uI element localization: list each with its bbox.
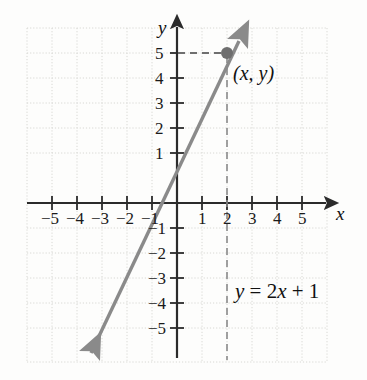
y-tick-label--5: −5 bbox=[148, 320, 166, 337]
y-tick-label--2: −2 bbox=[148, 245, 166, 262]
x-tick-label-1: 1 bbox=[198, 210, 207, 227]
y-tick-label--4: −4 bbox=[148, 295, 166, 312]
x-tick-label-2: 2 bbox=[223, 210, 232, 227]
equation-label: y = 2x + 1 bbox=[235, 281, 319, 302]
equation-plus: + bbox=[292, 279, 304, 303]
x-tick-label--3: −3 bbox=[91, 210, 109, 227]
equation-variable: x bbox=[277, 279, 286, 303]
y-tick-label--3: −3 bbox=[148, 270, 166, 287]
x-tick-label-4: 4 bbox=[273, 210, 282, 227]
x-tick-label--5: −5 bbox=[41, 210, 59, 227]
equation-lhs: y bbox=[235, 279, 244, 303]
equation-constant: 1 bbox=[309, 279, 320, 303]
y-axis-label: y bbox=[158, 18, 166, 37]
y-tick-label-5: 5 bbox=[155, 45, 164, 62]
x-tick-label-3: 3 bbox=[248, 210, 257, 227]
x-tick-label-5: 5 bbox=[298, 210, 307, 227]
y-tick-label-4: 4 bbox=[155, 70, 164, 87]
y-tick-label--1: −1 bbox=[148, 220, 166, 237]
y-tick-label-1: 1 bbox=[155, 145, 164, 162]
x-tick-label--4: −4 bbox=[66, 210, 84, 227]
y-tick-label-2: 2 bbox=[155, 120, 164, 137]
point-coordinate-label: (x, y) bbox=[233, 63, 274, 83]
plotted-point bbox=[221, 47, 233, 59]
x-tick-label--2: −2 bbox=[116, 210, 134, 227]
equation-coefficient: 2 bbox=[267, 279, 278, 303]
equation-equals: = bbox=[250, 279, 262, 303]
graph-figure: −5 −4 −3 −2 −1 1 2 3 4 5 5 4 3 2 1 −1 −2… bbox=[0, 0, 367, 380]
x-axis-label: x bbox=[336, 204, 344, 223]
coordinate-plane bbox=[0, 0, 367, 380]
y-tick-label-3: 3 bbox=[155, 95, 164, 112]
